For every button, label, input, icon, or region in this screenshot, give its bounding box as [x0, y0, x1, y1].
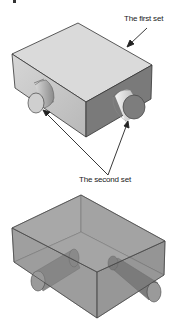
transparent-box — [12, 195, 165, 318]
callout-first-set: The first set — [124, 14, 163, 23]
artifact-mark — [13, 0, 16, 3]
callout-second-set: The second set — [79, 175, 131, 184]
opaque-box — [12, 23, 152, 137]
diagram-canvas — [0, 0, 181, 327]
